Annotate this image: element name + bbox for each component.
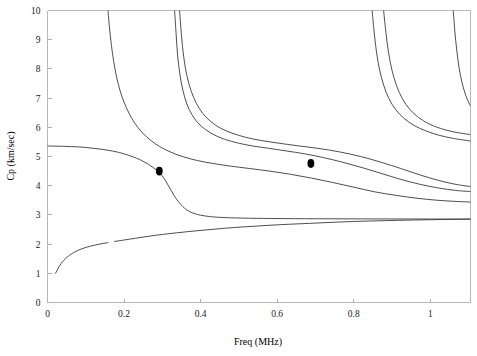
y-tick-label: 8 xyxy=(36,64,41,74)
y-tick-label: 6 xyxy=(36,123,41,133)
x-tick-label: 0.8 xyxy=(348,309,360,319)
x-tick-label: 0.6 xyxy=(271,309,283,319)
y-axis-title: Cp (km/sec) xyxy=(5,131,17,180)
y-tick-label: 2 xyxy=(36,240,41,250)
x-axis-title: Freq (MHz) xyxy=(234,336,282,348)
x-tick-label: 0.2 xyxy=(118,309,130,319)
dispersion-curve-chart: 00.20.40.60.81 012345678910 Freq (MHz) C… xyxy=(0,0,477,356)
y-tick-label: 9 xyxy=(36,35,41,45)
y-tick-label: 7 xyxy=(36,94,41,104)
data-point-1-marker xyxy=(156,167,163,176)
data-point-2-marker xyxy=(307,159,314,168)
x-tick-label: 0 xyxy=(45,309,50,319)
chart-figure: 00.20.40.60.81 012345678910 Freq (MHz) C… xyxy=(0,0,477,356)
y-tick-label: 4 xyxy=(36,181,41,191)
y-tick-label: 3 xyxy=(36,210,41,220)
x-tick-label: 0.4 xyxy=(195,309,207,319)
x-tick-label: 1 xyxy=(428,309,433,319)
y-tick-label: 0 xyxy=(36,298,41,308)
y-tick-label: 5 xyxy=(36,152,41,162)
y-tick-label: 1 xyxy=(36,269,41,279)
y-tick-label: 10 xyxy=(31,6,41,16)
